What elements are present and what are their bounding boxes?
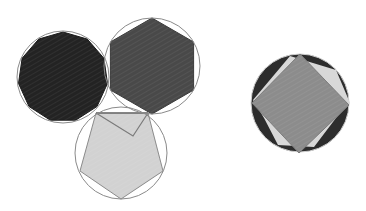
hexagon-hatch [110, 18, 193, 114]
polygon-11-gon-hatch [19, 32, 108, 120]
right-inscribed-square-group [251, 54, 350, 153]
geometry-figure [0, 0, 366, 211]
left-polygon-group [17, 18, 200, 199]
pentagon-hatch [80, 113, 163, 199]
